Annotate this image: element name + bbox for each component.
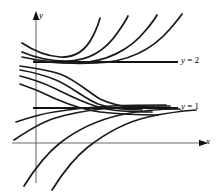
curve-above-2-a: [22, 18, 100, 57]
solution-curves-figure: y x y = 2 y = 1: [0, 0, 218, 194]
y-axis-label: y: [39, 11, 43, 20]
asymptote-label-y-equals-2: y = 2: [181, 56, 199, 65]
asymptote-2-equation: = 2: [185, 55, 199, 65]
axes-group: [12, 11, 208, 183]
curve-below-1-d: [52, 110, 196, 190]
curves-below-lower-asymptote: [14, 105, 196, 190]
plot-canvas: [0, 0, 218, 194]
x-axis-label: x: [206, 137, 210, 146]
curve-between-a: [20, 66, 138, 108]
asymptote-1-equation: = 1: [185, 101, 199, 111]
curves-above-upper-asymptote: [22, 14, 182, 63]
asymptote-label-y-equals-1: y = 1: [181, 102, 199, 111]
